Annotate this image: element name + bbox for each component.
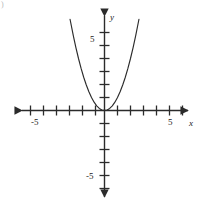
x-axis-label-neg5: -5 (31, 118, 39, 127)
x-axis-name: x (189, 119, 193, 128)
graph-canvas (0, 0, 201, 200)
y-axis-name: y (110, 13, 114, 22)
y-axis-label-pos5: 5 (90, 35, 95, 44)
coordinate-plane-figure: ) (0, 0, 201, 200)
x-axis-label-pos5: 5 (168, 118, 173, 127)
y-axis-label-neg5: -5 (86, 172, 94, 181)
